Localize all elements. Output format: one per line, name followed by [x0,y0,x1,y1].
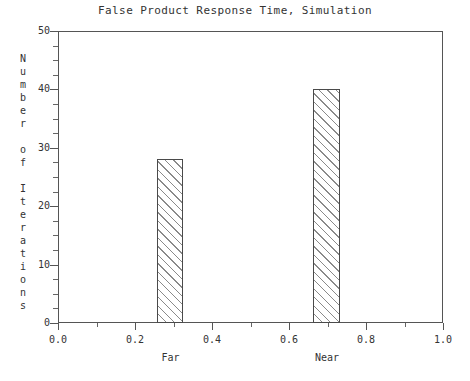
y-tick-label: 20 [24,201,50,211]
y-tick-minor [53,162,58,163]
x-tick-major [135,323,136,330]
y-tick-major [50,265,58,266]
y-tick-minor [53,235,58,236]
y-tick-major [50,31,58,32]
y-tick-minor [53,279,58,280]
y-axis-label-char: I [16,182,30,195]
x-tick-minor [251,323,252,327]
y-tick-major [50,89,58,90]
x-tick-label: 0.0 [38,334,78,345]
x-tick-major [443,323,444,330]
y-axis-label-char: N [16,52,30,65]
y-tick-label: 50 [24,26,50,36]
bar-near [313,89,340,323]
y-tick-major [50,206,58,207]
x-tick-label: 0.2 [115,334,155,345]
y-tick-minor [53,177,58,178]
y-axis-label-char: a [16,234,30,247]
x-tick-label: 0.4 [192,334,232,345]
y-tick-label: 40 [24,84,50,94]
y-tick-minor [53,192,58,193]
x-tick-minor [97,323,98,327]
chart-title: False Product Response Time, Simulation [0,4,470,17]
x-tick-major [289,323,290,330]
bar-far [157,159,183,323]
y-axis-label-char: f [16,156,30,169]
y-tick-minor [53,60,58,61]
x-tick-label: 1.0 [423,334,463,345]
x-tick-major [58,323,59,330]
y-tick-label: 0 [24,318,50,328]
y-axis-label-char: u [16,65,30,78]
y-axis-label-char: r [16,221,30,234]
x-group-label: Far [140,352,200,363]
chart-figure: False Product Response Time, Simulation … [0,0,470,381]
y-axis-label-char: e [16,104,30,117]
x-tick-major [366,323,367,330]
y-tick-major [50,323,58,324]
y-tick-minor [53,46,58,47]
y-tick-major [50,148,58,149]
y-axis-label-char [16,169,30,182]
y-tick-minor [53,104,58,105]
x-tick-major [212,323,213,330]
x-tick-minor [174,323,175,327]
y-tick-minor [53,294,58,295]
y-tick-minor [53,133,58,134]
y-tick-label: 10 [24,260,50,270]
y-tick-minor [53,308,58,309]
y-axis-label-char: t [16,247,30,260]
plot-area-frame [58,31,443,323]
x-tick-label: 0.6 [269,334,309,345]
y-tick-minor [53,250,58,251]
y-axis-label-char: s [16,299,30,312]
x-tick-label: 0.8 [346,334,386,345]
y-tick-minor [53,75,58,76]
y-tick-minor [53,221,58,222]
x-tick-minor [328,323,329,327]
y-axis-label-char: r [16,117,30,130]
x-tick-minor [405,323,406,327]
y-axis-label-char [16,130,30,143]
y-tick-label: 30 [24,143,50,153]
y-axis-label-char: n [16,286,30,299]
x-group-label: Near [297,352,357,363]
y-axis-label-char: o [16,273,30,286]
y-tick-minor [53,119,58,120]
